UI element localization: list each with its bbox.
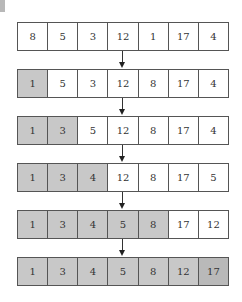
array-row-1: 8 5 3 12 1 17 4 xyxy=(17,22,229,51)
array-cell: 5 xyxy=(199,164,228,191)
array-row-4: 1 3 4 12 8 17 5 xyxy=(17,163,229,192)
down-arrow-icon xyxy=(121,239,123,257)
sorted-cell: 1 xyxy=(18,211,48,238)
sorted-cell: 12 xyxy=(169,258,199,285)
array-cell: 8 xyxy=(139,117,169,144)
sorted-cell: 5 xyxy=(108,211,138,238)
sorted-cell: 4 xyxy=(78,211,108,238)
array-row-2: 1 5 3 12 8 17 4 xyxy=(17,69,229,98)
sorted-cell: 1 xyxy=(18,117,48,144)
array-cell: 4 xyxy=(199,23,228,50)
corner-mark xyxy=(0,0,5,12)
array-cell: 17 xyxy=(169,23,199,50)
sorted-cell: 3 xyxy=(48,164,78,191)
sorted-cell: 1 xyxy=(18,258,48,285)
array-cell: 3 xyxy=(78,70,108,97)
sorted-cell: 1 xyxy=(18,164,48,191)
array-cell: 4 xyxy=(199,70,228,97)
array-cell: 12 xyxy=(108,70,138,97)
array-cell: 8 xyxy=(139,70,169,97)
sorted-cell: 3 xyxy=(48,258,78,285)
array-cell: 5 xyxy=(48,23,78,50)
sorted-cell: 17 xyxy=(199,258,228,285)
array-cell: 12 xyxy=(108,117,138,144)
array-row-3: 1 3 5 12 8 17 4 xyxy=(17,116,229,145)
array-cell: 12 xyxy=(108,164,138,191)
array-cell: 1 xyxy=(139,23,169,50)
sorted-cell: 3 xyxy=(48,117,78,144)
array-cell: 12 xyxy=(199,211,228,238)
down-arrow-icon xyxy=(121,98,123,116)
sorted-cell: 3 xyxy=(48,211,78,238)
down-arrow-icon xyxy=(121,192,123,210)
array-cell: 8 xyxy=(139,164,169,191)
sorted-cell: 8 xyxy=(139,211,169,238)
array-cell: 17 xyxy=(169,70,199,97)
sorted-cell: 4 xyxy=(78,164,108,191)
sorted-cell: 4 xyxy=(78,258,108,285)
array-cell: 17 xyxy=(169,164,199,191)
sorted-cell: 8 xyxy=(139,258,169,285)
down-arrow-icon xyxy=(121,145,123,163)
array-cell: 5 xyxy=(78,117,108,144)
down-arrow-icon xyxy=(121,51,123,69)
array-cell: 5 xyxy=(48,70,78,97)
array-row-5: 1 3 4 5 8 17 12 xyxy=(17,210,229,239)
array-cell: 3 xyxy=(78,23,108,50)
array-cell: 4 xyxy=(199,117,228,144)
array-cell: 17 xyxy=(169,117,199,144)
array-cell: 17 xyxy=(169,211,199,238)
sorted-cell: 5 xyxy=(108,258,138,285)
array-row-6: 1 3 4 5 8 12 17 xyxy=(17,257,229,286)
array-cell: 8 xyxy=(18,23,48,50)
array-cell: 12 xyxy=(108,23,138,50)
sorted-cell: 1 xyxy=(18,70,48,97)
